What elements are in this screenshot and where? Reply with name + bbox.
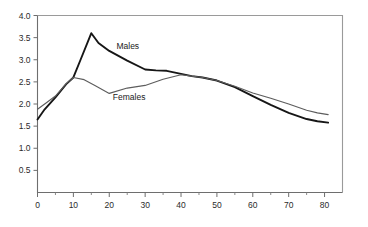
y-tick-label: 2.5 xyxy=(19,77,31,87)
x-tick-label: 10 xyxy=(69,200,79,210)
series-label-females: Females xyxy=(113,92,146,102)
data-series-group xyxy=(38,33,329,122)
series-annotations: MalesFemales xyxy=(113,41,146,103)
chart-container: 0.51.01.52.02.53.03.54.0 010203040506070… xyxy=(0,0,368,227)
y-tick-label: 0.5 xyxy=(19,165,31,175)
plot-frame-top-right xyxy=(38,16,343,193)
plot-frame xyxy=(38,16,343,193)
y-tick-label: 1.0 xyxy=(19,143,31,153)
axis-ticks xyxy=(34,16,325,198)
axis-lines xyxy=(38,16,343,193)
y-axis-tick-labels: 0.51.01.52.02.53.03.54.0 xyxy=(19,11,31,176)
y-tick-label: 4.0 xyxy=(19,11,31,21)
y-tick-label: 3.5 xyxy=(19,33,31,43)
x-tick-label: 40 xyxy=(176,200,186,210)
x-tick-label: 30 xyxy=(140,200,150,210)
series-line-females xyxy=(38,75,329,115)
series-line-males xyxy=(38,33,329,122)
series-label-males: Males xyxy=(116,41,139,51)
x-tick-label: 50 xyxy=(212,200,222,210)
y-tick-label: 1.5 xyxy=(19,121,31,131)
x-tick-label: 0 xyxy=(35,200,40,210)
line-chart: 0.51.01.52.02.53.03.54.0 010203040506070… xyxy=(0,0,368,227)
x-tick-label: 80 xyxy=(320,200,330,210)
x-tick-label: 60 xyxy=(248,200,258,210)
x-tick-label: 70 xyxy=(284,200,294,210)
y-tick-label: 3.0 xyxy=(19,55,31,65)
x-tick-label: 20 xyxy=(105,200,115,210)
x-axis-tick-labels: 01020304050607080 xyxy=(35,200,329,210)
y-tick-label: 2.0 xyxy=(19,99,31,109)
